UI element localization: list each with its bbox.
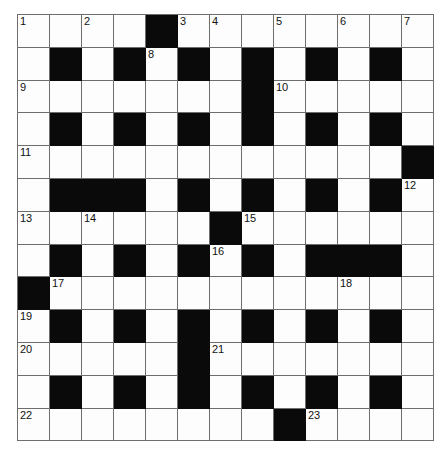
crossword-open-cell[interactable]: 17 xyxy=(50,277,82,310)
crossword-open-cell[interactable] xyxy=(114,277,146,310)
crossword-open-cell[interactable] xyxy=(338,409,370,442)
crossword-open-cell[interactable]: 10 xyxy=(274,81,306,114)
crossword-open-cell[interactable]: 14 xyxy=(82,212,114,245)
crossword-open-cell[interactable]: 19 xyxy=(18,310,50,343)
crossword-open-cell[interactable] xyxy=(370,409,402,442)
crossword-open-cell[interactable] xyxy=(114,81,146,114)
crossword-open-cell[interactable] xyxy=(82,48,114,81)
crossword-open-cell[interactable] xyxy=(210,48,242,81)
crossword-open-cell[interactable]: 16 xyxy=(210,245,242,278)
crossword-open-cell[interactable] xyxy=(178,277,210,310)
crossword-open-cell[interactable] xyxy=(82,409,114,442)
crossword-open-cell[interactable] xyxy=(146,310,178,343)
crossword-open-cell[interactable]: 21 xyxy=(210,343,242,376)
crossword-open-cell[interactable] xyxy=(82,245,114,278)
crossword-open-cell[interactable] xyxy=(18,179,50,212)
crossword-open-cell[interactable] xyxy=(274,212,306,245)
crossword-open-cell[interactable] xyxy=(402,212,434,245)
crossword-open-cell[interactable] xyxy=(274,376,306,409)
crossword-open-cell[interactable] xyxy=(50,409,82,442)
crossword-open-cell[interactable] xyxy=(306,212,338,245)
crossword-open-cell[interactable] xyxy=(82,277,114,310)
crossword-open-cell[interactable] xyxy=(210,376,242,409)
crossword-open-cell[interactable] xyxy=(338,48,370,81)
crossword-open-cell[interactable] xyxy=(338,343,370,376)
crossword-open-cell[interactable] xyxy=(50,81,82,114)
crossword-open-cell[interactable] xyxy=(274,310,306,343)
crossword-open-cell[interactable] xyxy=(210,409,242,442)
crossword-open-cell[interactable] xyxy=(114,409,146,442)
crossword-open-cell[interactable]: 15 xyxy=(242,212,274,245)
crossword-open-cell[interactable]: 2 xyxy=(82,15,114,48)
crossword-open-cell[interactable] xyxy=(114,146,146,179)
crossword-open-cell[interactable] xyxy=(402,113,434,146)
crossword-open-cell[interactable] xyxy=(242,409,274,442)
crossword-open-cell[interactable] xyxy=(82,376,114,409)
crossword-open-cell[interactable]: 13 xyxy=(18,212,50,245)
crossword-open-cell[interactable]: 11 xyxy=(18,146,50,179)
crossword-open-cell[interactable] xyxy=(18,376,50,409)
crossword-open-cell[interactable] xyxy=(178,146,210,179)
crossword-open-cell[interactable] xyxy=(370,146,402,179)
crossword-open-cell[interactable]: 1 xyxy=(18,15,50,48)
crossword-open-cell[interactable] xyxy=(146,277,178,310)
crossword-open-cell[interactable] xyxy=(242,343,274,376)
crossword-open-cell[interactable] xyxy=(178,212,210,245)
crossword-open-cell[interactable]: 12 xyxy=(402,179,434,212)
crossword-open-cell[interactable] xyxy=(370,343,402,376)
crossword-open-cell[interactable] xyxy=(306,81,338,114)
crossword-open-cell[interactable] xyxy=(242,15,274,48)
crossword-open-cell[interactable]: 22 xyxy=(18,409,50,442)
crossword-open-cell[interactable] xyxy=(402,48,434,81)
crossword-open-cell[interactable] xyxy=(370,81,402,114)
crossword-open-cell[interactable] xyxy=(370,15,402,48)
crossword-open-cell[interactable] xyxy=(210,179,242,212)
crossword-open-cell[interactable] xyxy=(338,212,370,245)
crossword-open-cell[interactable] xyxy=(274,48,306,81)
crossword-open-cell[interactable] xyxy=(210,146,242,179)
crossword-open-cell[interactable] xyxy=(146,245,178,278)
crossword-open-cell[interactable] xyxy=(50,343,82,376)
crossword-open-cell[interactable] xyxy=(82,343,114,376)
crossword-open-cell[interactable] xyxy=(402,409,434,442)
crossword-open-cell[interactable]: 8 xyxy=(146,48,178,81)
crossword-open-cell[interactable] xyxy=(338,81,370,114)
crossword-open-cell[interactable] xyxy=(306,343,338,376)
crossword-open-cell[interactable] xyxy=(338,113,370,146)
crossword-open-cell[interactable] xyxy=(114,343,146,376)
crossword-open-cell[interactable] xyxy=(210,81,242,114)
crossword-open-cell[interactable] xyxy=(210,310,242,343)
crossword-open-cell[interactable] xyxy=(402,310,434,343)
crossword-open-cell[interactable] xyxy=(338,310,370,343)
crossword-open-cell[interactable] xyxy=(338,179,370,212)
crossword-open-cell[interactable] xyxy=(146,343,178,376)
crossword-open-cell[interactable]: 6 xyxy=(338,15,370,48)
crossword-open-cell[interactable] xyxy=(306,15,338,48)
crossword-open-cell[interactable]: 7 xyxy=(402,15,434,48)
crossword-open-cell[interactable] xyxy=(82,113,114,146)
crossword-open-cell[interactable] xyxy=(146,81,178,114)
crossword-open-cell[interactable] xyxy=(50,15,82,48)
crossword-open-cell[interactable] xyxy=(274,343,306,376)
crossword-open-cell[interactable]: 9 xyxy=(18,81,50,114)
crossword-open-cell[interactable] xyxy=(402,343,434,376)
crossword-open-cell[interactable] xyxy=(274,179,306,212)
crossword-open-cell[interactable] xyxy=(306,146,338,179)
crossword-open-cell[interactable] xyxy=(146,376,178,409)
crossword-open-cell[interactable] xyxy=(178,409,210,442)
crossword-open-cell[interactable]: 4 xyxy=(210,15,242,48)
crossword-open-cell[interactable] xyxy=(370,212,402,245)
crossword-open-cell[interactable] xyxy=(274,277,306,310)
crossword-open-cell[interactable] xyxy=(18,48,50,81)
crossword-open-cell[interactable] xyxy=(146,409,178,442)
crossword-open-cell[interactable]: 3 xyxy=(178,15,210,48)
crossword-open-cell[interactable] xyxy=(402,376,434,409)
crossword-open-cell[interactable] xyxy=(50,212,82,245)
crossword-open-cell[interactable]: 20 xyxy=(18,343,50,376)
crossword-open-cell[interactable] xyxy=(114,15,146,48)
crossword-open-cell[interactable] xyxy=(242,277,274,310)
crossword-open-cell[interactable] xyxy=(210,277,242,310)
crossword-open-cell[interactable]: 5 xyxy=(274,15,306,48)
crossword-grid[interactable]: 1234567891011121314151617181920212223 xyxy=(17,14,434,441)
crossword-open-cell[interactable] xyxy=(242,146,274,179)
